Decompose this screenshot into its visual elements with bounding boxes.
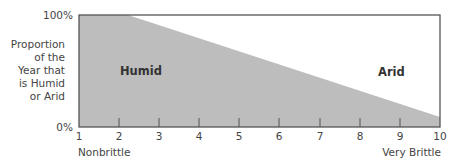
x-tick-label: 2 xyxy=(116,130,123,142)
x-tick-label: 9 xyxy=(397,130,404,142)
x-right-label: Very Brittle xyxy=(382,146,441,158)
x-tick-label: 4 xyxy=(196,130,203,142)
svg-text:of the: of the xyxy=(34,51,65,63)
x-tick-label: 3 xyxy=(156,130,163,142)
x-tick-label: 5 xyxy=(236,130,243,142)
svg-text:Proportion: Proportion xyxy=(11,38,65,50)
svg-text:Year that: Year that xyxy=(17,64,65,76)
arid-label: Arid xyxy=(378,65,405,79)
y-tick-label-bottom: 0% xyxy=(56,121,73,133)
x-tick-label: 7 xyxy=(317,130,324,142)
y-axis-label: Proportion of the Year that is Humid or … xyxy=(11,38,65,102)
x-tick-label: 6 xyxy=(276,130,283,142)
svg-text:or Arid: or Arid xyxy=(30,90,65,102)
x-tick-label: 10 xyxy=(433,130,446,142)
svg-text:is Humid: is Humid xyxy=(19,77,65,89)
y-tick-label-top: 100% xyxy=(43,9,73,21)
brittleness-chart: 1 2 3 4 5 6 7 8 9 10 Nonbrittle Very Bri… xyxy=(0,0,460,167)
x-tick-label: 8 xyxy=(357,130,364,142)
x-left-label: Nonbrittle xyxy=(78,146,130,158)
x-tick-label: 1 xyxy=(76,130,83,142)
humid-label: Humid xyxy=(120,64,162,78)
